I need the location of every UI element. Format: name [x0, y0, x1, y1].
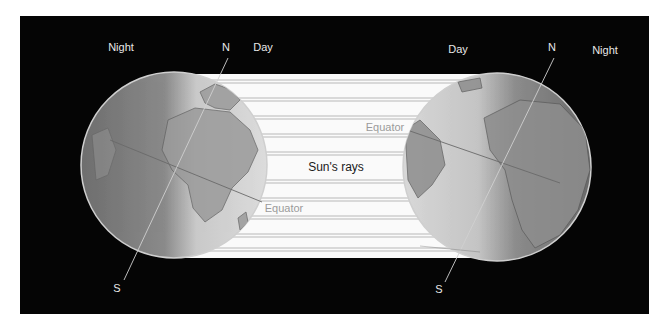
- label-equator-right: Equator: [366, 121, 405, 133]
- label-night-right: Night: [592, 44, 618, 56]
- label-suns-rays: Sun's rays: [308, 160, 364, 174]
- label-north-left: N: [222, 41, 230, 53]
- label-north-right: N: [548, 41, 556, 53]
- label-equator-left: Equator: [265, 202, 304, 214]
- label-day-left: Day: [253, 41, 273, 53]
- label-night-left: Night: [108, 41, 134, 53]
- label-south-left: S: [113, 282, 120, 294]
- label-south-right: S: [435, 283, 442, 295]
- label-day-right: Day: [448, 43, 468, 55]
